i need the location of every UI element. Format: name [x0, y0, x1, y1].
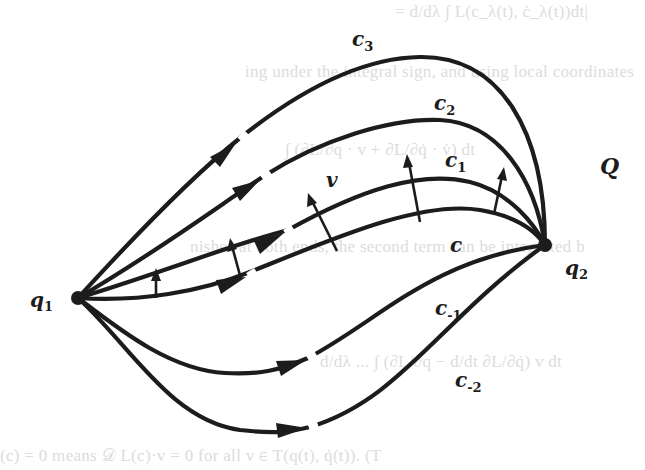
label-c1: c1 [445, 148, 466, 175]
curve-variation-diagram: c3 c2 c1 c c-1 c-2 v Q q1 q2 [0, 0, 645, 470]
vector-arrow [403, 154, 420, 222]
curve-c1 [78, 179, 545, 298]
direction-arrow-icon [232, 180, 260, 201]
label-c-minus-2: c-2 [455, 368, 482, 395]
start-point-q1 [71, 291, 85, 305]
arrow-head-icon [307, 193, 317, 207]
end-point-q2 [538, 238, 552, 252]
direction-arrow-icon [276, 360, 306, 376]
direction-arrow-icon [210, 143, 236, 167]
label-Q: Q [600, 153, 619, 179]
arrow-head-icon [497, 167, 507, 181]
label-c3: c3 [352, 27, 373, 54]
curve-c-minus-1 [78, 245, 545, 376]
label-c: c [450, 233, 462, 257]
label-q1: q1 [30, 288, 53, 314]
direction-arrow-icon [216, 277, 246, 294]
label-c2: c2 [434, 91, 455, 118]
label-c-minus-1: c-1 [435, 296, 462, 323]
label-q2: q2 [565, 256, 588, 282]
label-v: v [326, 168, 338, 192]
arrow-head-icon [403, 154, 413, 168]
